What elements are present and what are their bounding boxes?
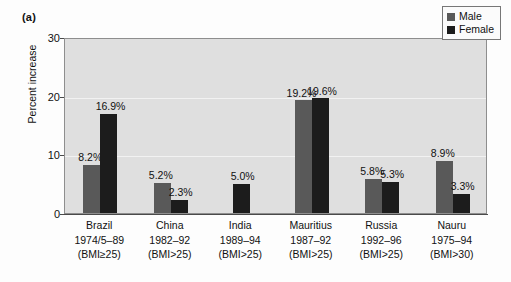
x-label-india: India1989–94(BMI>25) — [205, 218, 276, 262]
bar-value-label: 16.9% — [96, 101, 126, 112]
y-axis-tick-30: 30 — [26, 32, 60, 44]
bar-brazil-female: 16.9% — [100, 114, 117, 213]
figure-panel-a: (a) Percent increase 0102030 8.2%16.9%5.… — [0, 0, 511, 282]
bar-value-label: 8.2% — [78, 152, 102, 163]
bar-russia-female: 5.3% — [382, 182, 399, 213]
legend-swatch-icon — [447, 13, 455, 21]
x-label-china: China1982–92(BMI>25) — [135, 218, 206, 262]
x-label-russia: Russia1992–96(BMI>25) — [346, 218, 417, 262]
bar-group-china: 5.2%2.3% — [136, 39, 207, 213]
legend-item-female[interactable]: Female — [447, 23, 494, 36]
x-axis-category-labels: Brazil1974/5–89(BMI≥25)China1982–92(BMI>… — [64, 218, 487, 280]
y-axis-tickmark — [60, 38, 64, 39]
x-label-brazil: Brazil1974/5–89(BMI≥25) — [64, 218, 135, 262]
bar-value-label: 19.6% — [307, 86, 337, 97]
legend-item-male[interactable]: Male — [447, 10, 494, 23]
x-label-period: 1987–92 — [276, 233, 347, 248]
bar-value-label: 8.9% — [431, 148, 455, 159]
bar-value-label: 5.0% — [231, 171, 255, 182]
bar-value-label: 2.3% — [169, 187, 193, 198]
legend-swatch-icon — [447, 26, 455, 34]
x-label-bmi: (BMI≥25) — [64, 247, 135, 262]
bar-group-nauru: 8.9%3.3% — [418, 39, 489, 213]
bar-value-label: 5.3% — [380, 169, 404, 180]
x-label-country: India — [205, 218, 276, 233]
legend-label: Female — [459, 23, 494, 36]
y-axis-tickmark — [60, 97, 64, 98]
x-label-bmi: (BMI>25) — [276, 247, 347, 262]
x-axis-line — [64, 214, 488, 215]
bar-value-label: 5.2% — [149, 170, 173, 181]
bar-group-brazil: 8.2%16.9% — [65, 39, 136, 213]
legend-label: Male — [459, 10, 482, 23]
y-axis-tickmark — [60, 155, 64, 156]
legend: MaleFemale — [442, 6, 501, 40]
bar-india-female: 5.0% — [233, 184, 250, 213]
x-label-country: Mauritius — [276, 218, 347, 233]
x-label-bmi: (BMI>25) — [135, 247, 206, 262]
x-label-bmi: (BMI>25) — [346, 247, 417, 262]
x-label-period: 1975–94 — [417, 233, 488, 248]
bar-group-india: 5.0% — [206, 39, 277, 213]
x-label-country: Brazil — [64, 218, 135, 233]
x-label-period: 1992–96 — [346, 233, 417, 248]
plot-area: 8.2%16.9%5.2%2.3%5.0%19.2%19.6%5.8%5.3%8… — [64, 38, 487, 214]
x-label-mauritius: Mauritius1987–92(BMI>25) — [276, 218, 347, 262]
x-label-country: Russia — [346, 218, 417, 233]
bar-mauritius-male: 19.2% — [295, 100, 312, 213]
y-axis-tickmark — [60, 214, 64, 215]
x-label-country: Nauru — [417, 218, 488, 233]
bar-russia-male: 5.8% — [365, 179, 382, 213]
bar-value-label: 3.3% — [451, 181, 475, 192]
y-axis-tick-10: 10 — [26, 149, 60, 161]
x-label-country: China — [135, 218, 206, 233]
bar-group-mauritius: 19.2%19.6% — [277, 39, 348, 213]
x-label-bmi: (BMI>30) — [417, 247, 488, 262]
bar-nauru-female: 3.3% — [453, 194, 470, 213]
bar-brazil-male: 8.2% — [83, 165, 100, 213]
x-label-period: 1989–94 — [205, 233, 276, 248]
bar-mauritius-female: 19.6% — [312, 98, 329, 213]
bar-group-russia: 5.8%5.3% — [347, 39, 418, 213]
bar-china-female: 2.3% — [171, 200, 188, 213]
y-axis-tick-labels: 0102030 — [26, 0, 60, 282]
y-axis-tick-20: 20 — [26, 91, 60, 103]
y-axis-tick-0: 0 — [26, 208, 60, 220]
x-label-period: 1982–92 — [135, 233, 206, 248]
x-label-bmi: (BMI>25) — [205, 247, 276, 262]
x-label-period: 1974/5–89 — [64, 233, 135, 248]
x-label-nauru: Nauru1975–94(BMI>30) — [417, 218, 488, 262]
